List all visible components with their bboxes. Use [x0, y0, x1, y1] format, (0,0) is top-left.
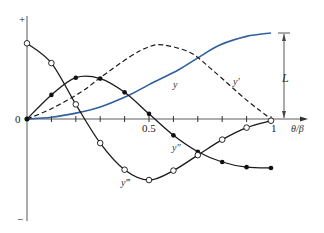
open-circle-marker — [146, 177, 152, 183]
L-arrow-top-icon — [282, 34, 286, 41]
open-circle-marker — [195, 152, 201, 158]
filled-dot-marker — [49, 93, 54, 98]
L-arrow-bottom-icon — [282, 111, 286, 118]
x-axis-arrow-icon — [300, 117, 308, 122]
filled-dot-marker — [220, 160, 225, 165]
filled-dot-marker — [171, 133, 176, 138]
filled-dot-marker — [98, 76, 103, 81]
filled-dot-marker — [122, 90, 127, 95]
origin-dot — [25, 117, 30, 122]
open-circle-marker — [122, 167, 128, 173]
open-circle-marker — [219, 137, 225, 143]
filled-dot-marker — [74, 75, 79, 80]
y-axis-plus-label: + — [19, 13, 25, 25]
x-axis-label: θ/β — [291, 123, 304, 134]
label-y-prime: y′ — [232, 76, 240, 87]
open-circle-marker — [171, 168, 177, 174]
open-circle-marker — [244, 125, 250, 131]
y-axis-minus-label: − — [17, 213, 23, 225]
cam-motion-chart: + − 0 0.5 1 θ/β L y y′ y″ y‴ — [0, 0, 324, 233]
filled-dot-marker — [269, 166, 274, 171]
filled-dot-marker — [147, 112, 152, 117]
open-circle-marker — [24, 41, 30, 47]
x-tick-label-half: 0.5 — [142, 122, 156, 134]
open-circle-marker — [97, 140, 103, 146]
label-y-double-prime: y″ — [171, 142, 181, 153]
open-circle-marker — [49, 60, 55, 66]
x-tick-label-one: 1 — [271, 122, 277, 134]
filled-dot-marker — [244, 165, 249, 170]
L-label: L — [281, 71, 289, 85]
open-circle-marker — [73, 102, 79, 108]
origin-label: 0 — [15, 113, 21, 125]
data-markers — [24, 41, 274, 183]
label-y: y — [172, 79, 178, 90]
label-y-triple-prime: y‴ — [120, 177, 130, 188]
